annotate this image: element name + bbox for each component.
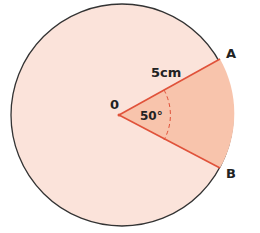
centre-label: 0 (110, 97, 119, 112)
point-a-label: A (226, 46, 236, 61)
angle-label: 50° (140, 109, 163, 123)
centre-point (118, 114, 121, 117)
point-b-label: B (226, 166, 236, 181)
radius-label: 5cm (151, 65, 181, 80)
circle-sector-diagram: 0 5cm 50° A B (0, 0, 260, 233)
